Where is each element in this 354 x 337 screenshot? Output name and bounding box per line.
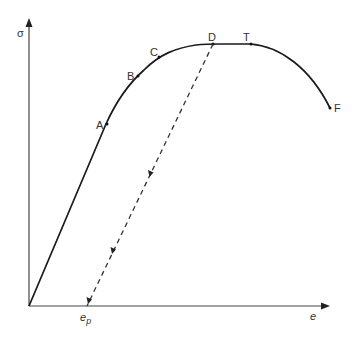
- stress-strain-diagram: σ A B C D T F ep e: [0, 0, 354, 337]
- point-A-marker: [106, 123, 109, 126]
- point-F-label: F: [334, 102, 341, 114]
- point-A-label: A: [96, 119, 104, 131]
- point-C-label: C: [150, 46, 158, 58]
- x-axis-label: e: [310, 310, 316, 322]
- plastic-strain-label: ep: [80, 311, 91, 326]
- point-T-label: T: [243, 31, 250, 43]
- plastic-strain-subscript: p: [85, 316, 91, 326]
- y-axis-label: σ: [17, 27, 24, 39]
- axes: [26, 18, 331, 310]
- x-axis-arrow-icon: [321, 303, 330, 310]
- point-D-label: D: [208, 31, 216, 43]
- point-F-marker: [329, 107, 332, 110]
- stress-strain-curve: [29, 44, 330, 306]
- point-B-marker: [137, 75, 140, 78]
- point-markers: [106, 43, 332, 126]
- point-T-marker: [250, 43, 253, 46]
- point-B-label: B: [127, 70, 134, 82]
- y-axis-arrow-icon: [26, 18, 33, 27]
